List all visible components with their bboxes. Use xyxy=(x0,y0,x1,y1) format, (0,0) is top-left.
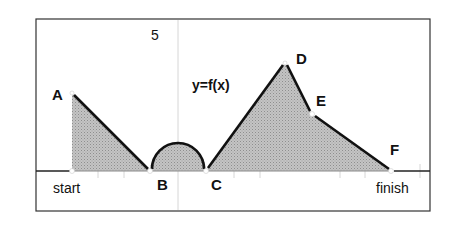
point-label-f: F xyxy=(390,141,399,158)
point-label-a: A xyxy=(52,86,63,103)
point-label-d: D xyxy=(296,50,307,67)
finish-label: finish xyxy=(376,180,409,196)
start-label: start xyxy=(53,180,80,196)
triangle-area xyxy=(206,63,391,171)
point-label-b: B xyxy=(157,176,168,193)
point-label-c: C xyxy=(211,176,222,193)
point-label-e: E xyxy=(316,92,326,109)
y-tick-label: 5 xyxy=(151,27,159,43)
graph-title: y=f(x) xyxy=(192,77,230,93)
semicircle-area xyxy=(150,143,206,171)
